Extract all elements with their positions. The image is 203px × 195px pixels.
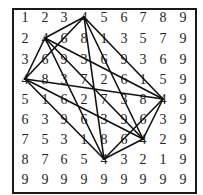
- grid-cell: 9: [114, 50, 134, 70]
- grid-cell: 6: [54, 150, 74, 170]
- grid-cell: 9: [173, 29, 193, 49]
- grid-cell: 5: [94, 8, 114, 28]
- grid-cell: 1: [153, 150, 173, 170]
- grid-cell: 8: [35, 70, 55, 90]
- grid-cell: 3: [74, 50, 94, 70]
- grid-cell: 2: [153, 130, 173, 150]
- grid-cell: 6: [74, 110, 94, 130]
- grid-cell: 6: [94, 50, 114, 70]
- grid-cell: 6: [153, 50, 173, 70]
- grid-cell: 9: [173, 130, 193, 150]
- grid-cell: 3: [54, 70, 74, 90]
- grid-cell: 6: [114, 70, 134, 90]
- grid-cell: 7: [35, 150, 55, 170]
- grid-cell: 9: [54, 50, 74, 70]
- grid-cell: 5: [15, 90, 35, 110]
- grid-cell: 9: [173, 170, 193, 190]
- grid-cell: 1: [94, 29, 114, 49]
- grid-cell: 2: [74, 90, 94, 110]
- grid-cell: 3: [94, 110, 114, 130]
- grid-cell: 3: [35, 110, 55, 130]
- grid-cell: 7: [15, 130, 35, 150]
- grid-cell: 6: [35, 50, 55, 70]
- grid-cell: 9: [173, 110, 193, 130]
- grid-cell: 9: [114, 110, 134, 130]
- grid-cell: 6: [54, 90, 74, 110]
- grid-cell: 3: [54, 130, 74, 150]
- grid-cell: 8: [133, 90, 153, 110]
- grid-cell: 9: [15, 170, 35, 190]
- grid-cell: 3: [114, 29, 134, 49]
- grid-cell: 2: [35, 8, 55, 28]
- grid-cell: 9: [173, 8, 193, 28]
- grid-cell: 9: [133, 170, 153, 190]
- grid-cell: 5: [153, 70, 173, 90]
- grid-cell: 9: [94, 170, 114, 190]
- grid-cell: 6: [15, 110, 35, 130]
- grid-cell: 5: [133, 29, 153, 49]
- grid-cell: 8: [15, 150, 35, 170]
- grid-cell: 5: [74, 150, 94, 170]
- grid-cell: 4: [133, 130, 153, 150]
- grid-cell: 7: [133, 8, 153, 28]
- grid-cell: 3: [133, 50, 153, 70]
- grid-cell: 1: [15, 8, 35, 28]
- grid-cell: 2: [94, 70, 114, 90]
- grid-cell: 1: [35, 90, 55, 110]
- grid-cell: 4: [35, 29, 55, 49]
- grid-cell: 9: [173, 50, 193, 70]
- grid-cell: 7: [74, 70, 94, 90]
- grid-cell: 3: [114, 90, 134, 110]
- grid-cell: 1: [133, 70, 153, 90]
- grid-cell: 3: [15, 50, 35, 70]
- grid-cell: 7: [153, 29, 173, 49]
- grid-cell: 9: [35, 170, 55, 190]
- grid-cell: 9: [74, 170, 94, 190]
- grid-cell: 9: [54, 110, 74, 130]
- grid-cell: 8: [153, 8, 173, 28]
- grid-cell: 9: [173, 150, 193, 170]
- grid-cell: 6: [114, 8, 134, 28]
- grid-cell: 8: [94, 130, 114, 150]
- grid-cell: 9: [54, 170, 74, 190]
- grid-cell: 6: [133, 110, 153, 130]
- grid-cell: 3: [114, 150, 134, 170]
- grid-cell: 9: [153, 170, 173, 190]
- grid-cell: 8: [74, 29, 94, 49]
- grid-cell: 4: [74, 8, 94, 28]
- grid-cell: 7: [94, 90, 114, 110]
- grid-cell: 2: [15, 29, 35, 49]
- grid-cell: 6: [54, 29, 74, 49]
- grid-cell: 9: [114, 170, 134, 190]
- grid-cell: 3: [153, 110, 173, 130]
- grid-cell: 5: [35, 130, 55, 150]
- grid-cell: 9: [173, 70, 193, 90]
- grid-cell: 6: [114, 130, 134, 150]
- grid-cell: 9: [173, 90, 193, 110]
- grid-cell: 3: [54, 8, 74, 28]
- grid-cell: 4: [94, 150, 114, 170]
- grid-cell: 1: [74, 130, 94, 150]
- grid-cell: 2: [133, 150, 153, 170]
- grid-cell: 4: [15, 70, 35, 90]
- grid-cell: 4: [153, 90, 173, 110]
